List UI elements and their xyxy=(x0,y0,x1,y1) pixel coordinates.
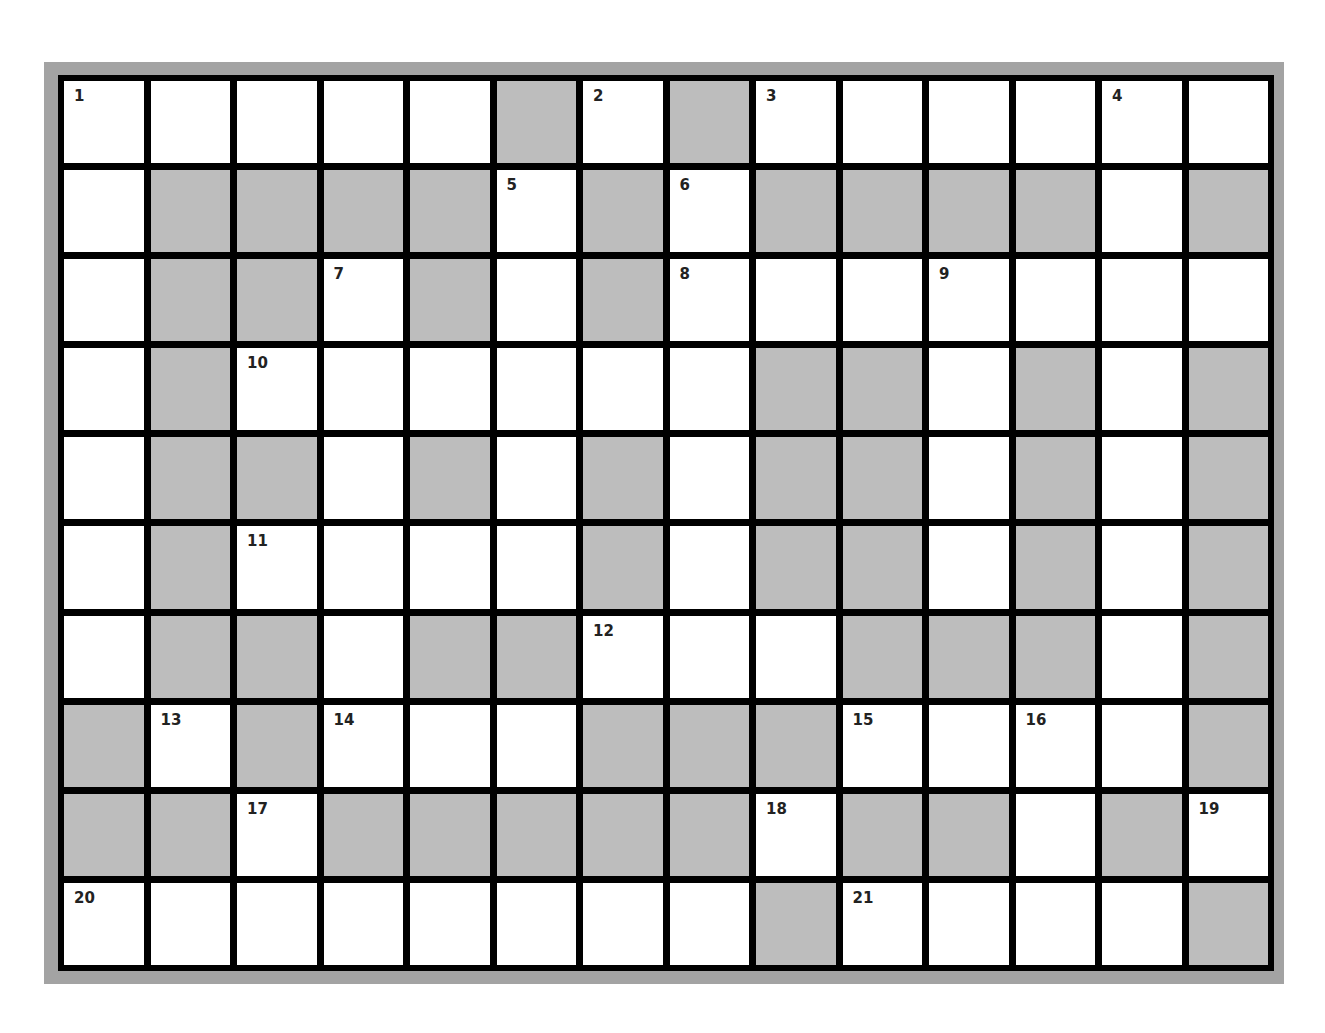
crossword-cell[interactable] xyxy=(1102,526,1182,608)
crossword-cell[interactable] xyxy=(410,883,490,965)
crossword-cell[interactable]: 19 xyxy=(1189,794,1269,876)
crossword-cell[interactable] xyxy=(670,437,750,519)
crossword-cell[interactable] xyxy=(64,170,144,252)
crossword-cell[interactable] xyxy=(929,705,1009,787)
blocked-cell xyxy=(756,705,836,787)
crossword-cell[interactable] xyxy=(1016,259,1096,341)
crossword-cell[interactable]: 18 xyxy=(756,794,836,876)
crossword-cell[interactable] xyxy=(929,348,1009,430)
crossword-cell[interactable] xyxy=(497,437,577,519)
crossword-cell[interactable]: 3 xyxy=(756,81,836,163)
blocked-cell xyxy=(237,705,317,787)
crossword-cell[interactable]: 15 xyxy=(843,705,923,787)
blocked-cell xyxy=(843,170,923,252)
blocked-cell xyxy=(410,616,490,698)
crossword-cell[interactable]: 11 xyxy=(237,526,317,608)
crossword-cell[interactable] xyxy=(64,437,144,519)
crossword-cell[interactable]: 16 xyxy=(1016,705,1096,787)
clue-number: 7 xyxy=(334,265,344,283)
crossword-cell[interactable] xyxy=(151,81,231,163)
blocked-cell xyxy=(1189,170,1269,252)
crossword-cell[interactable] xyxy=(670,883,750,965)
crossword-cell[interactable] xyxy=(1189,259,1269,341)
crossword-cell[interactable] xyxy=(324,437,404,519)
crossword-cell[interactable] xyxy=(64,526,144,608)
crossword-cell[interactable]: 13 xyxy=(151,705,231,787)
crossword-cell[interactable] xyxy=(237,81,317,163)
crossword-cell[interactable]: 6 xyxy=(670,170,750,252)
crossword-cell[interactable]: 10 xyxy=(237,348,317,430)
blocked-cell xyxy=(583,794,663,876)
crossword-cell[interactable] xyxy=(410,81,490,163)
blocked-cell xyxy=(497,81,577,163)
crossword-cell[interactable] xyxy=(1102,616,1182,698)
crossword-cell[interactable] xyxy=(843,259,923,341)
crossword-cell[interactable]: 20 xyxy=(64,883,144,965)
crossword-cell[interactable]: 17 xyxy=(237,794,317,876)
crossword-cell[interactable] xyxy=(670,348,750,430)
crossword-cell[interactable] xyxy=(410,348,490,430)
crossword-cell[interactable] xyxy=(929,81,1009,163)
crossword-cell[interactable] xyxy=(1102,883,1182,965)
crossword-cell[interactable]: 14 xyxy=(324,705,404,787)
crossword-cell[interactable] xyxy=(1016,794,1096,876)
crossword-cell[interactable]: 2 xyxy=(583,81,663,163)
crossword-cell[interactable] xyxy=(583,883,663,965)
crossword-cell[interactable]: 7 xyxy=(324,259,404,341)
crossword-cell[interactable]: 21 xyxy=(843,883,923,965)
crossword-cell[interactable] xyxy=(410,526,490,608)
crossword-cell[interactable] xyxy=(1016,883,1096,965)
blocked-cell xyxy=(843,348,923,430)
crossword-cell[interactable] xyxy=(756,259,836,341)
crossword-cell[interactable]: 1 xyxy=(64,81,144,163)
crossword-cell[interactable]: 9 xyxy=(929,259,1009,341)
crossword-cell[interactable] xyxy=(1016,81,1096,163)
crossword-cell[interactable] xyxy=(497,348,577,430)
crossword-cell[interactable] xyxy=(843,81,923,163)
crossword-cell[interactable]: 8 xyxy=(670,259,750,341)
crossword-cell[interactable] xyxy=(1189,81,1269,163)
blocked-cell xyxy=(1189,437,1269,519)
crossword-cell[interactable]: 5 xyxy=(497,170,577,252)
crossword-cell[interactable] xyxy=(324,81,404,163)
crossword-cell[interactable] xyxy=(1102,259,1182,341)
crossword-cell[interactable] xyxy=(64,348,144,430)
crossword-cell[interactable] xyxy=(583,348,663,430)
crossword-cell[interactable] xyxy=(324,616,404,698)
clue-number: 10 xyxy=(247,354,268,372)
crossword-cell[interactable] xyxy=(1102,437,1182,519)
crossword-cell[interactable] xyxy=(151,883,231,965)
crossword-cell[interactable] xyxy=(237,883,317,965)
blocked-cell xyxy=(583,170,663,252)
crossword-cell[interactable]: 12 xyxy=(583,616,663,698)
crossword-cell[interactable] xyxy=(929,526,1009,608)
crossword-cell[interactable] xyxy=(497,259,577,341)
crossword-cell[interactable] xyxy=(324,883,404,965)
crossword-cell[interactable] xyxy=(64,259,144,341)
crossword-cell[interactable] xyxy=(410,705,490,787)
crossword-cell[interactable] xyxy=(324,526,404,608)
crossword-cell[interactable] xyxy=(670,616,750,698)
crossword-cell[interactable] xyxy=(929,883,1009,965)
crossword-cell[interactable]: 4 xyxy=(1102,81,1182,163)
clue-number: 5 xyxy=(507,176,517,194)
blocked-cell xyxy=(410,170,490,252)
clue-number: 13 xyxy=(161,711,182,729)
clue-number: 11 xyxy=(247,532,268,550)
crossword-cell[interactable] xyxy=(670,526,750,608)
crossword-cell[interactable] xyxy=(929,437,1009,519)
crossword-grid: 123456789101112131415161718192021 xyxy=(58,75,1274,971)
crossword-cell[interactable] xyxy=(1102,348,1182,430)
crossword-cell[interactable] xyxy=(324,348,404,430)
crossword-cell[interactable] xyxy=(497,526,577,608)
crossword-cell[interactable] xyxy=(1102,705,1182,787)
crossword-cell[interactable] xyxy=(64,616,144,698)
crossword-cell[interactable] xyxy=(497,883,577,965)
blocked-cell xyxy=(1102,794,1182,876)
blocked-cell xyxy=(497,616,577,698)
crossword-cell[interactable] xyxy=(1102,170,1182,252)
crossword-cell[interactable] xyxy=(756,616,836,698)
clue-number: 20 xyxy=(74,889,95,907)
blocked-cell xyxy=(151,616,231,698)
crossword-cell[interactable] xyxy=(497,705,577,787)
